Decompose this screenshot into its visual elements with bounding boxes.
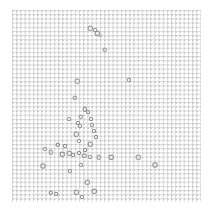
scatter-point: [63, 144, 67, 148]
scatter-point: [88, 142, 93, 147]
scatter-point: [79, 163, 83, 167]
scatter-point: [76, 121, 80, 125]
scatter-point: [49, 150, 54, 155]
scatter-point: [86, 110, 90, 114]
scatter-point: [98, 34, 102, 38]
scatter-point: [92, 189, 97, 194]
scatter-point: [90, 123, 94, 127]
scatter-point: [56, 143, 61, 148]
scatter-point: [88, 26, 93, 31]
scatter-point: [80, 195, 84, 199]
scatter-point: [79, 115, 84, 120]
scatter-point: [92, 129, 96, 133]
scatter-point: [68, 169, 72, 173]
scatter-point: [54, 192, 58, 196]
scatter-point: [77, 151, 81, 155]
scatter-point: [109, 155, 114, 160]
scatter-plot-figure: [0, 0, 211, 212]
scatter-point: [77, 139, 81, 143]
scatter-point: [89, 117, 93, 121]
plot-area: [12, 10, 201, 202]
scatter-point: [88, 155, 92, 159]
scatter-point: [82, 154, 87, 159]
scatter-point: [73, 96, 78, 101]
scatter-point: [74, 132, 79, 137]
scatter-point: [136, 155, 141, 160]
scatter-point: [74, 190, 79, 195]
scatter-point: [103, 48, 108, 53]
markers-layer: [12, 10, 201, 202]
scatter-point: [83, 148, 87, 152]
scatter-point: [60, 152, 65, 157]
scatter-point: [127, 78, 131, 82]
scatter-point: [43, 147, 47, 151]
scatter-point: [75, 79, 80, 84]
scatter-point: [153, 162, 158, 167]
scatter-point: [71, 153, 75, 157]
scatter-point: [67, 117, 71, 121]
scatter-point: [85, 180, 90, 185]
scatter-point: [49, 191, 54, 196]
scatter-point: [40, 163, 45, 168]
scatter-point: [94, 135, 98, 139]
scatter-point: [97, 155, 102, 160]
